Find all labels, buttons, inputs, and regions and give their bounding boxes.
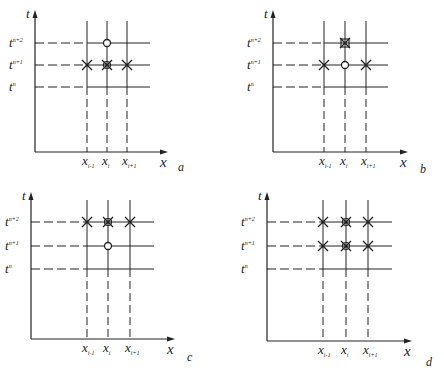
panel-caption-b: b [420,162,426,176]
space-node-label-2: xi+1 [360,153,376,169]
time-level-label-0: tn [247,79,254,94]
panel-caption-d: d [426,355,433,369]
time-level-label-2: tn+2 [241,214,255,229]
t-axis-arrow-icon [33,10,38,18]
space-node-label-0: xi-1 [318,153,331,169]
stencil-marker-circle-icon [104,40,111,47]
space-node-label-1: xi [339,153,348,169]
time-level-label-1: tn+1 [241,238,255,253]
x-axis-label: x [403,343,411,359]
panel-caption-a: a [178,160,184,174]
time-level-label-2: tn+2 [247,35,261,50]
panel-c: txtntn+1tn+2xi-1xixi+1c [5,188,193,364]
stencil-marker-cross-circle-icon [102,60,112,70]
space-node-label-1: xi [340,342,349,358]
stencil-marker-cross-circle-icon [341,241,351,251]
x-axis-label: x [399,154,407,170]
x-axis-label: x [166,341,174,357]
panel-a: txtntn+1tn+2xi-1xixi+1a [9,6,184,174]
space-node-label-2: xi+1 [124,340,140,356]
stencil-marker-circle-icon [105,243,112,250]
time-level-label-0: tn [5,261,12,276]
time-level-label-2: tn+2 [9,35,23,50]
time-level-label-1: tn+1 [247,57,261,72]
space-node-label-2: xi+1 [121,153,137,169]
space-node-label-2: xi+1 [362,342,378,358]
t-axis-arrow-icon [265,192,270,200]
stencil-marker-circle-icon [342,62,349,69]
space-node-label-0: xi-1 [317,342,330,358]
panel-b: txtntn+1tn+2xi-1xixi+1b [247,6,426,176]
t-axis-label: t [264,6,268,21]
space-node-label-1: xi [101,153,110,169]
space-node-label-0: xi-1 [81,153,94,169]
time-level-label-1: tn+1 [5,238,19,253]
t-axis-label: t [258,188,262,203]
time-level-label-0: tn [241,261,248,276]
stencil-marker-cross-circle-icon [341,217,351,227]
time-level-label-2: tn+2 [5,214,19,229]
t-axis-label: t [26,6,30,21]
finite-difference-stencil-figure: txtntn+1tn+2xi-1xixi+1atxtntn+1tn+2xi-1x… [0,0,444,374]
t-axis-label: t [22,188,26,203]
x-axis-label: x [159,154,167,170]
t-axis-arrow-icon [29,192,34,200]
space-node-label-1: xi [102,340,111,356]
panel-d: txtntn+1tn+2xi-1xixi+1d [241,188,433,369]
t-axis-arrow-icon [271,10,276,18]
stencil-marker-cross-box-icon [340,38,350,48]
time-level-label-1: tn+1 [9,57,23,72]
stencil-marker-cross-circle-icon [103,217,113,227]
space-node-label-0: xi-1 [81,340,94,356]
panel-caption-c: c [187,350,193,364]
time-level-label-0: tn [9,79,16,94]
